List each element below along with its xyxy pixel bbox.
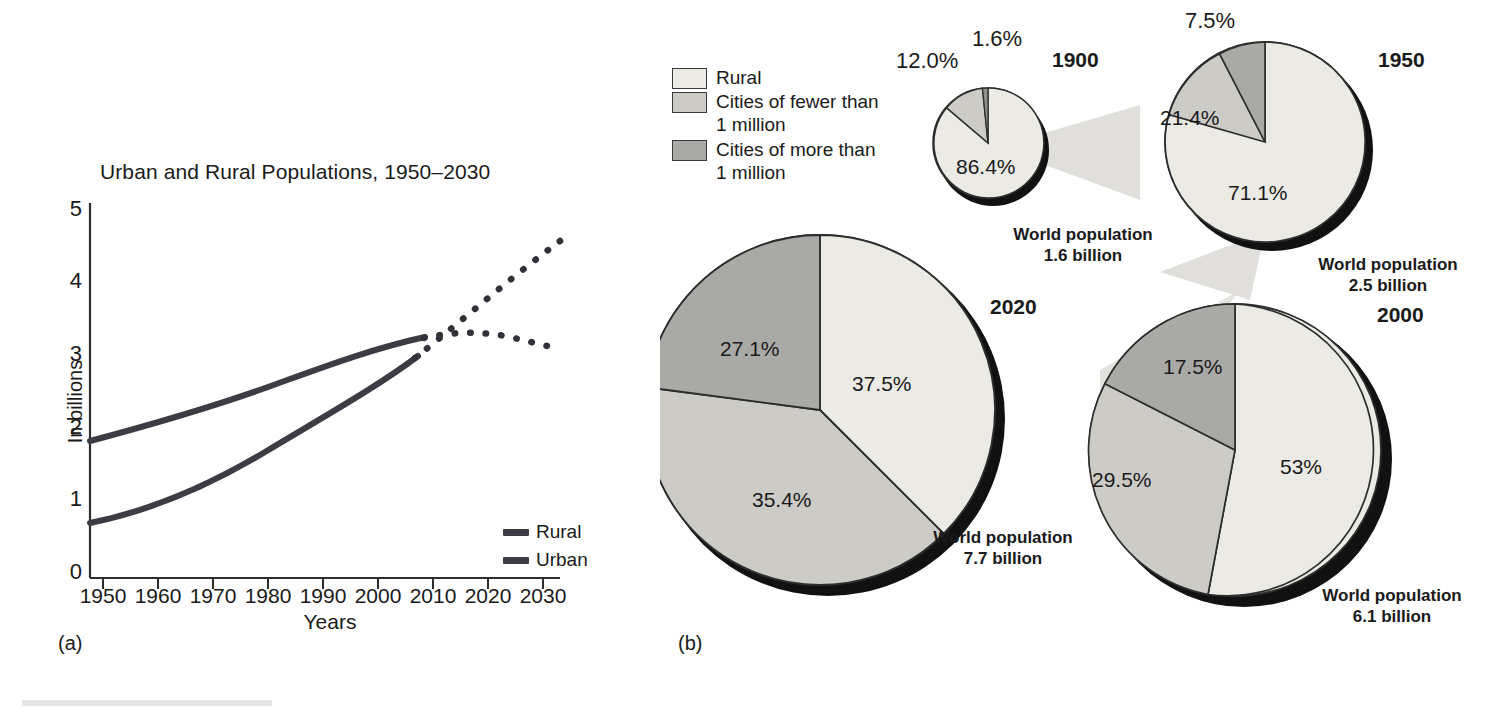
panel-b-label: (b)	[678, 632, 702, 655]
pie-1900-label-cities-fewer: 12.0%	[896, 48, 958, 74]
pie-2000-year: 2000	[1377, 303, 1424, 327]
pie-2020-slice-cities-more	[660, 235, 820, 410]
pie-1950-population: World population 2.5 billion	[1293, 254, 1483, 297]
legend-swatch-rural-icon	[503, 529, 529, 536]
pie-1950-year: 1950	[1378, 48, 1425, 72]
legend-item-rural: Rural	[503, 521, 588, 543]
series-urban-solid	[90, 356, 418, 523]
pie-2020-label-cities-more: 27.1%	[720, 337, 780, 361]
pie-2020-population: World population 7.7 billion	[907, 527, 1099, 570]
line-chart-legend: Rural Urban	[503, 521, 588, 571]
pie-charts-panel: Rural Cities of fewer than 1 million Cit…	[660, 0, 1489, 707]
legend-label-rural: Rural	[536, 521, 581, 543]
pie-2020-label-cities-fewer: 35.4%	[752, 488, 812, 512]
x-axis-ticks	[103, 578, 543, 589]
pie-2020-label-rural: 37.5%	[852, 372, 912, 396]
legend-label-urban: Urban	[536, 549, 588, 571]
pie-1950	[1165, 42, 1373, 251]
pie-1900-year: 1900	[1052, 48, 1099, 72]
pie-2000	[1089, 304, 1392, 607]
pie-2000-population: World population 6.1 billion	[1296, 585, 1488, 628]
series-urban-dotted	[415, 241, 560, 358]
panel-a-label: (a)	[58, 632, 82, 655]
pie-1900-label-cities-more: 1.6%	[972, 26, 1022, 52]
legend-swatch-urban-icon	[503, 557, 529, 564]
pie-1950-label-cities-more: 7.5%	[1185, 8, 1235, 34]
figure-caption-sliver	[22, 700, 272, 706]
pie-2020-year: 2020	[990, 295, 1037, 319]
pie-1900-population: World population 1.6 billion	[988, 224, 1178, 267]
legend-item-urban: Urban	[503, 549, 588, 571]
pie-1900	[933, 88, 1049, 206]
line-chart-panel: Urban and Rural Populations, 1950–2030 I…	[0, 0, 660, 707]
pie-1950-label-rural: 71.1%	[1228, 181, 1288, 205]
pie-2000-label-rural: 53%	[1280, 455, 1322, 479]
pie-2000-label-cities-more: 17.5%	[1163, 355, 1223, 379]
pie-1950-label-cities-fewer: 21.4%	[1160, 106, 1220, 130]
series-rural-dotted	[424, 333, 552, 347]
pie-2000-label-cities-fewer: 29.5%	[1092, 468, 1152, 492]
pie-1900-label-rural: 86.4%	[956, 155, 1016, 179]
plot-area	[0, 0, 660, 707]
